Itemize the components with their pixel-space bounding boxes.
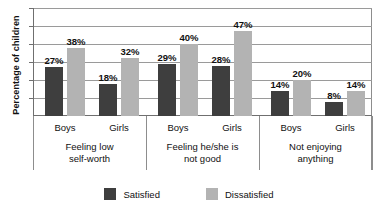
x-axis-group-label-line1: Feeling he/she is — [143, 141, 263, 153]
bar-value-label: 38% — [61, 36, 91, 47]
plot-area: 27%38%18%32%29%40%28%47%14%20%8%14% — [33, 8, 372, 116]
x-axis-category-label: Girls — [315, 122, 375, 133]
bar-value-label: 29% — [152, 52, 182, 63]
y-axis-title: Percentage of children — [11, 5, 21, 125]
x-axis-group-label-line1: Feeling low — [30, 141, 150, 153]
bar-value-label: 32% — [115, 46, 145, 57]
bar-value-label: 18% — [93, 72, 123, 83]
bar-chart: Percentage of children 27%38%18%32%29%40… — [0, 0, 378, 207]
x-axis-category-label: Boys — [148, 122, 208, 133]
chart-legend: Satisfied Dissatisfied — [0, 185, 378, 203]
x-axis-group-label-line1: Not enjoying — [256, 141, 376, 153]
x-axis-group-label: Feeling lowself-worth — [30, 141, 150, 164]
x-axis-group-label-line2: self-worth — [30, 153, 150, 165]
bar-satisfied-boys — [271, 91, 289, 116]
bar-value-label: 20% — [287, 68, 317, 79]
bar-dissatisfied-boys — [67, 48, 85, 116]
x-axis-category-label: Boys — [261, 122, 321, 133]
bar-value-label: 8% — [319, 90, 349, 101]
bar-dissatisfied-boys — [180, 44, 198, 116]
x-axis-group-label-line2: anything — [256, 153, 376, 165]
x-axis-group-label: Feeling he/she isnot good — [143, 141, 263, 164]
bar-satisfied-boys — [45, 67, 63, 116]
x-axis-group-label: Not enjoyinganything — [256, 141, 376, 164]
bar-value-label: 47% — [228, 19, 258, 30]
x-axis-category-label: Girls — [202, 122, 262, 133]
legend-label-dissatisfied: Dissatisfied — [225, 189, 274, 200]
bar-satisfied-girls — [325, 102, 343, 116]
bar-value-label: 40% — [174, 32, 204, 43]
bar-dissatisfied-girls — [347, 91, 365, 116]
bar-value-label: 14% — [265, 79, 295, 90]
x-axis-category-label: Girls — [89, 122, 149, 133]
bar-dissatisfied-girls — [121, 58, 139, 116]
bar-dissatisfied-boys — [293, 80, 311, 116]
x-axis-group-label-line2: not good — [143, 153, 263, 165]
x-axis-category-label: Boys — [35, 122, 95, 133]
bar-satisfied-girls — [212, 66, 230, 116]
legend-item-satisfied: Satisfied — [104, 188, 159, 200]
bar-satisfied-girls — [99, 84, 117, 116]
legend-swatch-dissatisfied — [206, 188, 218, 200]
bar-value-label: 14% — [341, 79, 371, 90]
bar-series-container: 27%38%18%32%29%40%28%47%14%20%8%14% — [33, 8, 372, 116]
bar-value-label: 27% — [39, 55, 69, 66]
legend-item-dissatisfied: Dissatisfied — [206, 188, 274, 200]
bar-satisfied-boys — [158, 64, 176, 116]
bar-dissatisfied-girls — [234, 31, 252, 116]
legend-swatch-satisfied — [104, 188, 116, 200]
legend-label-satisfied: Satisfied — [123, 189, 159, 200]
bar-value-label: 28% — [206, 54, 236, 65]
